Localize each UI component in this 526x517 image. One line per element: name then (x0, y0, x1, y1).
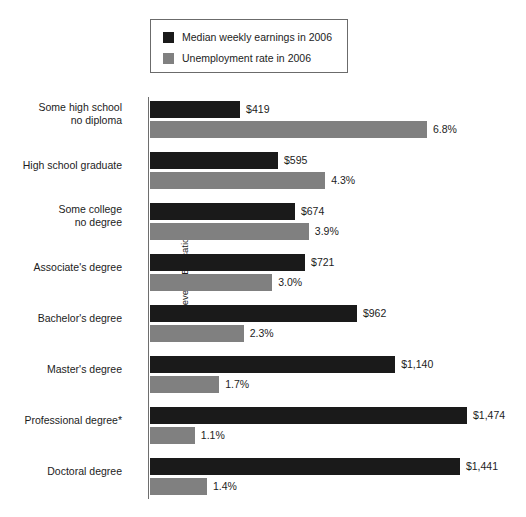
bar-value-unemployment: 6.8% (433, 121, 457, 138)
bar-group: Master's degree$1,1401.7% (0, 354, 526, 398)
bar-unemployment (150, 274, 272, 291)
bar-earnings (150, 254, 305, 271)
bar-earnings (150, 458, 460, 475)
bar-earnings (150, 203, 295, 220)
legend-label-unemployment: Unemployment rate in 2006 (182, 53, 311, 64)
bar-value-unemployment: 1.7% (225, 376, 249, 393)
bar-group: Professional degree*$1,4741.1% (0, 405, 526, 449)
category-label: Bachelor's degree (0, 312, 122, 325)
bar-unemployment (150, 325, 244, 342)
category-label: High school graduate (0, 159, 122, 172)
bar-value-unemployment: 1.4% (213, 478, 237, 495)
bar-value-earnings: $962 (363, 305, 386, 322)
bar-group: Bachelor's degree$9622.3% (0, 303, 526, 347)
category-label: Master's degree (0, 363, 122, 376)
bar-value-earnings: $721 (311, 254, 334, 271)
bar-earnings (150, 305, 357, 322)
category-label: Associate's degree (0, 261, 122, 274)
bar-earnings (150, 356, 395, 373)
bar-group: Associate's degree$7213.0% (0, 252, 526, 296)
bar-value-unemployment: 1.1% (201, 427, 225, 444)
bar-value-earnings: $1,441 (466, 458, 498, 475)
bar-value-unemployment: 2.3% (250, 325, 274, 342)
category-label: Doctoral degree (0, 465, 122, 478)
bar-earnings (150, 152, 278, 169)
bar-group: Doctoral degree$1,4411.4% (0, 456, 526, 500)
bar-value-unemployment: 3.0% (278, 274, 302, 291)
bar-value-earnings: $595 (284, 152, 307, 169)
bar-group: Some collegeno degree$6743.9% (0, 201, 526, 245)
bar-value-earnings: $1,474 (473, 407, 505, 424)
bar-unemployment (150, 172, 325, 189)
legend-swatch-earnings (163, 32, 174, 43)
education-earnings-unemployment-chart: Median weekly earnings in 2006 Unemploym… (0, 0, 526, 517)
category-label: Some collegeno degree (0, 203, 122, 229)
bar-value-earnings: $1,140 (401, 356, 433, 373)
legend-swatch-unemployment (163, 53, 174, 64)
bar-unemployment (150, 478, 207, 495)
chart-legend: Median weekly earnings in 2006 Unemploym… (150, 19, 348, 73)
bar-group: High school graduate$5954.3% (0, 150, 526, 194)
bar-value-unemployment: 4.3% (331, 172, 355, 189)
legend-item-unemployment: Unemployment rate in 2006 (163, 48, 347, 68)
category-label: Professional degree* (0, 414, 122, 427)
bar-unemployment (150, 223, 309, 240)
bar-unemployment (150, 376, 219, 393)
bar-value-earnings: $674 (301, 203, 324, 220)
bar-earnings (150, 101, 240, 118)
category-label: Some high schoolno diploma (0, 101, 122, 127)
bar-unemployment (150, 427, 195, 444)
legend-item-earnings: Median weekly earnings in 2006 (163, 27, 347, 47)
bar-group: Some high schoolno diploma$4196.8% (0, 99, 526, 143)
legend-label-earnings: Median weekly earnings in 2006 (182, 32, 332, 43)
bar-value-unemployment: 3.9% (315, 223, 339, 240)
bar-value-earnings: $419 (246, 101, 269, 118)
bar-unemployment (150, 121, 427, 138)
bar-earnings (150, 407, 467, 424)
